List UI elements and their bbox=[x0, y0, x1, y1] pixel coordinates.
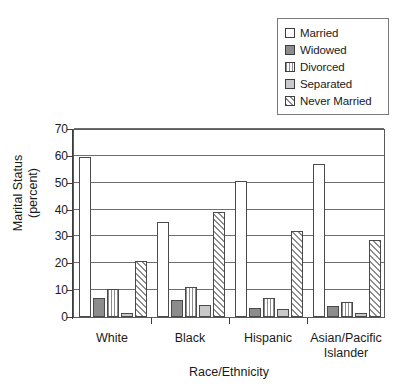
y-axis-tick-label: 0 bbox=[28, 311, 68, 323]
x-axis-title: Race/Ethnicity bbox=[73, 365, 385, 379]
y-axis-tick-label: 10 bbox=[28, 284, 68, 296]
legend-item-widowed: Widowed bbox=[285, 41, 382, 58]
x-axis-tick bbox=[229, 318, 230, 324]
y-axis-tick-label: 50 bbox=[28, 177, 68, 189]
bar bbox=[355, 313, 367, 317]
plot-area bbox=[73, 129, 385, 318]
dark-gray-square-icon bbox=[285, 45, 295, 55]
bar bbox=[185, 287, 197, 317]
light-gray-square-icon bbox=[285, 79, 295, 89]
y-axis-tick-label: 60 bbox=[28, 150, 68, 162]
bar bbox=[79, 157, 91, 317]
bar-group bbox=[152, 130, 230, 317]
legend-label: Married bbox=[300, 27, 338, 39]
diagonal-hatch-square-icon bbox=[285, 96, 295, 106]
bar bbox=[157, 222, 169, 317]
x-axis-category-line: Asian/Pacific bbox=[295, 331, 397, 346]
bar bbox=[93, 298, 105, 317]
bar bbox=[341, 302, 353, 317]
bar bbox=[213, 212, 225, 317]
legend-item-never-married: Never Married bbox=[285, 92, 382, 109]
x-axis-category-label: Asian/PacificIslander bbox=[295, 331, 397, 361]
bar-group bbox=[74, 130, 152, 317]
x-axis-tick bbox=[151, 318, 152, 324]
y-axis-tick-label: 20 bbox=[28, 257, 68, 269]
legend-item-married: Married bbox=[285, 24, 382, 41]
bar bbox=[199, 305, 211, 317]
bar bbox=[249, 308, 261, 317]
bar bbox=[313, 164, 325, 317]
vertical-stripe-square-icon bbox=[285, 62, 295, 72]
bar bbox=[121, 313, 133, 317]
legend-label: Never Married bbox=[300, 95, 372, 107]
y-axis-title-line1: Marital Status bbox=[11, 123, 26, 263]
bar bbox=[291, 231, 303, 317]
legend-item-divorced: Divorced bbox=[285, 58, 382, 75]
bar bbox=[235, 181, 247, 317]
legend-label: Separated bbox=[300, 78, 352, 90]
legend-label: Widowed bbox=[300, 44, 347, 56]
bar bbox=[171, 300, 183, 317]
legend-label: Divorced bbox=[300, 61, 345, 73]
y-axis-tick-label: 30 bbox=[28, 230, 68, 242]
bar bbox=[135, 261, 147, 317]
gridline bbox=[74, 128, 384, 129]
white-square-icon bbox=[285, 28, 295, 38]
chart-legend: Married Widowed Divorced Separated Never… bbox=[277, 18, 389, 115]
x-axis-tick bbox=[307, 318, 308, 324]
bar bbox=[277, 309, 289, 317]
bar bbox=[369, 240, 381, 317]
bar-group bbox=[230, 130, 308, 317]
bar bbox=[107, 289, 119, 317]
bar-group bbox=[308, 130, 386, 317]
bar bbox=[263, 298, 275, 317]
y-axis-tick-label: 70 bbox=[28, 123, 68, 135]
legend-item-separated: Separated bbox=[285, 75, 382, 92]
bar bbox=[327, 306, 339, 317]
x-axis-category-line: Islander bbox=[295, 346, 397, 361]
y-axis-tick-label: 40 bbox=[28, 204, 68, 216]
